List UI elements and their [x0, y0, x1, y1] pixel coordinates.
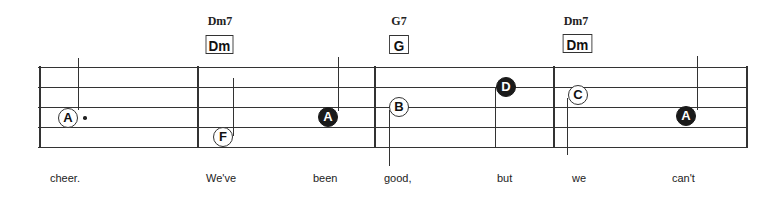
barline-3: [553, 66, 555, 148]
chord-box-1: Dm: [206, 35, 234, 54]
barline-end: [746, 66, 748, 148]
note-dot-1: [83, 116, 87, 120]
note-stem-1: [78, 58, 79, 110]
lyric-5: but: [497, 172, 512, 184]
lyric-3: been: [313, 172, 337, 184]
note-head-1: A: [58, 108, 78, 128]
lyric-7: can't: [672, 172, 695, 184]
note-stem-3: [338, 57, 339, 111]
chord-name-2: G7: [374, 14, 424, 29]
note-stem-2: [233, 78, 234, 136]
lyric-2: We've: [206, 172, 236, 184]
note-head-6: C: [568, 85, 588, 105]
lyric-1: cheer.: [50, 172, 80, 184]
note-stem-7: [697, 56, 698, 110]
staff-line-2: [38, 87, 748, 88]
chord-name-1: Dm7: [195, 14, 245, 29]
lyric-4: good,: [384, 172, 412, 184]
staff-line-4: [38, 127, 748, 128]
barline-1: [197, 66, 199, 148]
note-stem-5: [495, 88, 496, 147]
note-head-5: D: [496, 77, 516, 97]
chord-box-2: G: [389, 35, 409, 54]
note-head-2: F: [213, 127, 233, 147]
chord-name-3: Dm7: [551, 14, 601, 29]
note-head-4: B: [389, 97, 409, 117]
note-stem-6: [567, 98, 568, 155]
chord-box-3: Dm: [563, 34, 593, 53]
staff-line-5: [38, 147, 748, 148]
note-head-7: A: [676, 106, 696, 126]
note-stem-4: [389, 110, 390, 166]
barline-start: [39, 66, 41, 148]
note-head-3: A: [318, 107, 338, 127]
staff-line-1: [38, 67, 748, 68]
lyric-6: we: [572, 172, 586, 184]
barline-2: [374, 66, 376, 148]
